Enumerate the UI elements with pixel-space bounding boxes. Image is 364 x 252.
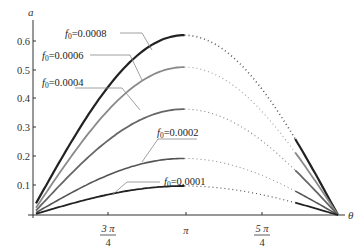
x-tick-5pi4-num: 5 π (255, 223, 269, 234)
y-tick-0.1: 0.1 (17, 180, 30, 191)
y-tick-0.4: 0.4 (17, 93, 31, 104)
curve-dotted-000001 (185, 186, 296, 203)
y-axis-title: a (28, 6, 34, 18)
label-f0-0008: f0=0.0008 (65, 28, 106, 41)
curve-tail-000006 (295, 153, 338, 216)
chart-canvas: a θ 0.1 0.2 0.3 0.4 0.5 0.6 3 π 4 π 5 π … (0, 0, 364, 252)
curve-dotted-000006 (185, 67, 296, 152)
label-f0-0002: f0=0.0002 (157, 127, 198, 140)
x-tick-3pi4-den: 4 (105, 237, 111, 248)
x-axis-title: θ (348, 209, 354, 221)
label-f0-0006: f0=0.0006 (42, 50, 83, 63)
x-tick-pi: π (183, 225, 189, 236)
y-tick-0.3: 0.3 (17, 122, 30, 133)
curve-dotted-000008 (185, 35, 296, 139)
x-tick-3pi4-num: 3 π (100, 223, 115, 234)
series-curves (36, 35, 338, 215)
curve-dotted-000004 (185, 109, 296, 170)
label-f0-0001: f0=0.0001 (164, 176, 205, 189)
y-tick-0.2: 0.2 (17, 151, 30, 162)
x-ticks: 3 π 4 π 5 π 4 (100, 212, 270, 248)
y-tick-0.6: 0.6 (17, 36, 30, 47)
x-tick-5pi4-den: 4 (259, 237, 265, 248)
y-tick-0.5: 0.5 (17, 65, 30, 76)
